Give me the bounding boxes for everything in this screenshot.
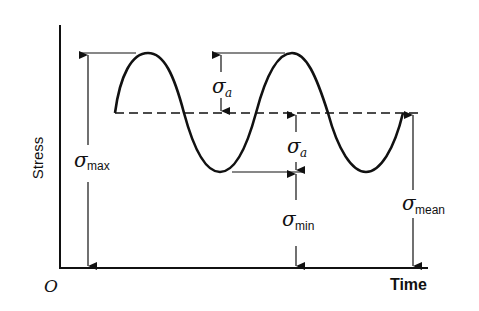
sigma-max-subscript: max: [87, 159, 110, 173]
sigma-a-lower-dimension: σ a: [287, 115, 307, 170]
sigma-a-upper-subscript: a: [225, 86, 232, 100]
sigma-a-upper-dimension: σ a: [212, 55, 232, 111]
sigma-mean-dimension: σ mean: [402, 115, 445, 266]
origin-label: O: [44, 276, 58, 296]
x-axis-label: Time: [390, 276, 427, 293]
sigma-mean-subscript: mean: [415, 203, 445, 217]
sigma-a-lower-subscript: a: [300, 146, 307, 160]
sigma-min-subscript: min: [295, 219, 314, 233]
stress-cycle-diagram: σ max σ a σ a σ min σ mean Stress Time O: [0, 0, 479, 311]
sigma-min-dimension: σ min: [282, 174, 314, 266]
sigma-max-dimension: σ max: [74, 55, 110, 266]
y-axis-label: Stress: [29, 137, 46, 180]
